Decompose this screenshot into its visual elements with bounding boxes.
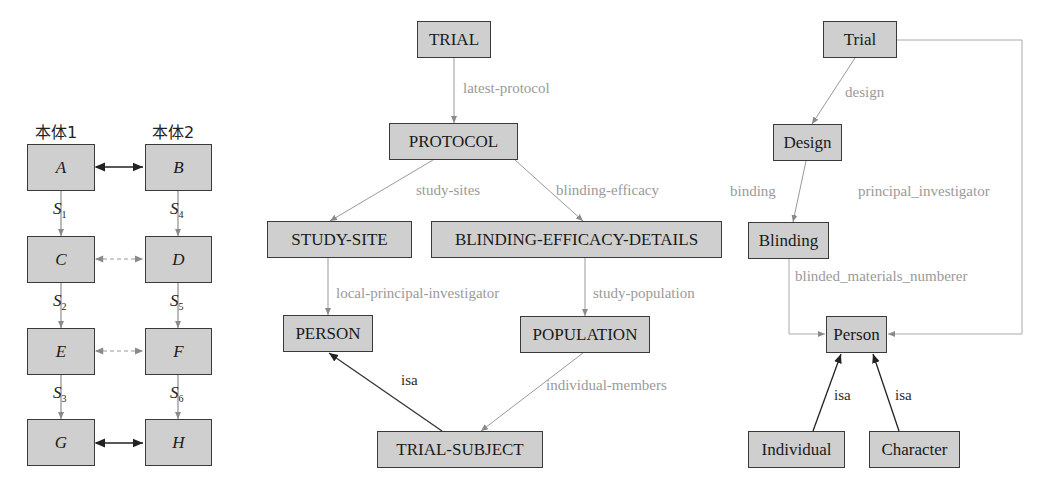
node-trial[interactable]: TRIAL [417,21,491,58]
label-local-principal-investigator: local-principal-investigator [336,285,499,302]
node-individual[interactable]: Individual [748,431,845,468]
node-design[interactable]: Design [773,124,842,161]
node-character[interactable]: Character [869,431,960,468]
edge-binding [793,161,806,222]
label-binding: binding [730,183,776,200]
label-study-sites: study-sites [416,182,480,199]
label-study-population: study-population [593,285,695,302]
node-blinding-efficacy-details[interactable]: BLINDING-EFFICACY-DETAILS [431,221,722,258]
edge-label-s5: S5 [170,291,184,312]
node-h[interactable]: H [145,419,212,466]
edge-label-s6: S6 [170,383,184,404]
edge-label-s2: S2 [53,291,67,312]
label-latest-protocol: latest-protocol [463,80,550,97]
edge-label-s3: S3 [53,383,67,404]
label-individual-members: individual-members [546,377,667,394]
ontology1-header: 本体1 [35,119,77,143]
ontology2-header: 本体2 [152,119,194,143]
edge-label-s1: S1 [53,199,67,220]
node-person-r[interactable]: Person [826,316,887,353]
edge-label-s4: S4 [170,199,184,220]
node-b[interactable]: B [145,144,212,191]
node-e[interactable]: E [27,328,95,375]
node-g[interactable]: G [27,419,95,466]
node-c[interactable]: C [27,236,95,283]
node-protocol[interactable]: PROTOCOL [389,123,518,160]
label-isa: isa [401,372,418,389]
node-trial-r[interactable]: Trial [823,21,897,58]
node-blinding[interactable]: Blinding [748,222,829,259]
node-f[interactable]: F [145,328,212,375]
node-a[interactable]: A [27,144,95,191]
label-principal-investigator: principal_investigator [858,183,990,200]
label-blinded-materials-numberer: blinded_materials_numberer [795,268,967,285]
node-person[interactable]: PERSON [283,315,373,352]
node-population[interactable]: POPULATION [520,316,650,353]
node-trial-subject[interactable]: TRIAL-SUBJECT [377,431,543,468]
node-study-site[interactable]: STUDY-SITE [267,221,412,258]
label-isa-character: isa [895,387,912,404]
edge-isa-person [329,353,442,431]
label-isa-individual: isa [834,387,851,404]
node-d[interactable]: D [145,236,212,283]
label-design: design [845,84,884,101]
label-blinding-efficacy: blinding-efficacy [556,182,659,199]
